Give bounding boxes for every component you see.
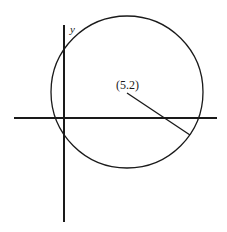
radius-line	[127, 93, 190, 135]
circle	[51, 16, 203, 168]
y-axis-label: y	[69, 23, 75, 35]
center-label: (5.2)	[116, 78, 139, 92]
coordinate-diagram: y (5.2)	[0, 0, 227, 232]
